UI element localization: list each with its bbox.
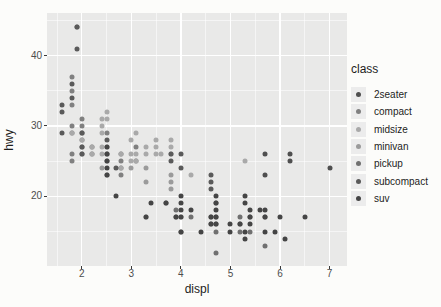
data-point (248, 222, 253, 227)
legend-label: 2seater (374, 89, 407, 100)
legend-key (351, 104, 366, 119)
data-point (114, 166, 119, 171)
data-point (129, 138, 134, 143)
data-point (154, 138, 159, 143)
gridline-major (47, 125, 347, 126)
data-point (104, 116, 109, 121)
y-axis-title: hwy (2, 120, 16, 160)
data-point (263, 173, 268, 178)
data-point (144, 215, 149, 220)
data-point (283, 236, 288, 241)
data-point (213, 201, 218, 206)
data-point (104, 173, 109, 178)
data-point (134, 145, 139, 150)
legend-key-dot (356, 109, 361, 114)
legend-label: suv (374, 193, 390, 204)
legend-item: subcompact (351, 172, 428, 189)
x-tick-label: 6 (272, 268, 288, 279)
gridline-minor (47, 90, 347, 91)
data-point (178, 229, 183, 234)
plot-panel (47, 13, 347, 266)
data-point (168, 180, 173, 185)
data-point (104, 109, 109, 114)
data-point (198, 229, 203, 234)
data-point (144, 152, 149, 157)
data-point (273, 229, 278, 234)
legend-label: midsize (374, 124, 408, 135)
data-point (69, 123, 74, 128)
data-point (208, 180, 213, 185)
legend-item: pickup (351, 155, 428, 172)
legend-label: subcompact (374, 176, 428, 187)
data-point (168, 138, 173, 143)
data-point (154, 145, 159, 150)
data-point (104, 159, 109, 164)
data-point (168, 145, 173, 150)
legend-title: class (351, 62, 428, 76)
data-point (168, 152, 173, 157)
x-tick-label: 2 (74, 268, 90, 279)
legend-key (351, 174, 366, 189)
gridline-major (279, 13, 280, 266)
legend-key-dot (356, 161, 361, 166)
data-point (243, 194, 248, 199)
data-point (263, 229, 268, 234)
data-point (178, 166, 183, 171)
data-point (238, 222, 243, 227)
data-point (59, 109, 64, 114)
data-point (59, 102, 64, 107)
data-point (188, 173, 193, 178)
data-point (263, 152, 268, 157)
data-point (89, 152, 94, 157)
data-point (213, 250, 218, 255)
x-tick-label: 3 (123, 268, 139, 279)
data-point (79, 130, 84, 135)
legend-key-dot (356, 179, 361, 184)
data-point (69, 130, 74, 135)
data-point (79, 123, 84, 128)
legend-key (351, 191, 366, 206)
data-point (168, 159, 173, 164)
data-point (278, 215, 283, 220)
y-tick-label: 20 (18, 190, 42, 202)
legend-label: pickup (374, 158, 403, 169)
data-point (164, 201, 169, 206)
data-point (104, 138, 109, 143)
legend-item: 2seater (351, 86, 428, 103)
legend-key (351, 139, 366, 154)
gridline-minor (57, 13, 58, 266)
legend-label: compact (374, 106, 412, 117)
gridline-minor (255, 13, 256, 266)
data-point (79, 152, 84, 157)
data-point (213, 194, 218, 199)
data-point (69, 81, 74, 86)
data-point (99, 130, 104, 135)
data-point (104, 130, 109, 135)
legend-item: minivan (351, 138, 428, 155)
data-point (178, 201, 183, 206)
y-tick-label: 30 (18, 120, 42, 132)
data-point (79, 138, 84, 143)
data-point (134, 152, 139, 157)
ggplot-scatter-figure: 234567 203040 displ hwy class 2seatercom… (0, 0, 441, 307)
data-point (243, 201, 248, 206)
data-point (119, 166, 124, 171)
data-point (243, 229, 248, 234)
legend-key-dot (356, 144, 361, 149)
data-point (114, 194, 119, 199)
data-point (213, 215, 218, 220)
data-point (327, 166, 332, 171)
legend-items: 2seatercompactmidsizeminivanpickupsubcom… (351, 86, 428, 207)
data-point (248, 208, 253, 213)
data-point (134, 159, 139, 164)
data-point (129, 166, 134, 171)
gridline-major (47, 55, 347, 56)
data-point (79, 116, 84, 121)
gridline-minor (205, 13, 206, 266)
data-point (213, 208, 218, 213)
data-point (178, 152, 183, 157)
data-point (144, 145, 149, 150)
x-tick-label: 7 (322, 268, 338, 279)
legend-label: minivan (374, 141, 408, 152)
y-tick-mark (44, 196, 47, 197)
